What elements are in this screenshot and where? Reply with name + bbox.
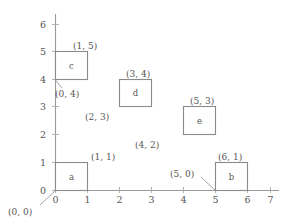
y-tick-labels: 0 1 2 3 4 5 6 [40, 19, 46, 196]
rect-group-c: c (0, 4) (1, 5) [55, 41, 97, 99]
x-tick-labels: 0 1 2 3 4 5 6 7 [52, 194, 273, 205]
origin-label: (0, 0) [8, 207, 32, 217]
rect-group-d: d (2, 3) (3, 4) [85, 69, 152, 122]
y-tick-label-1: 1 [40, 157, 46, 168]
x-tick-label-5: 5 [212, 194, 218, 205]
x-tick-label-4: 4 [180, 194, 186, 205]
rect-e-lower-left-label: (4, 2) [135, 140, 159, 150]
x-tick-label-7: 7 [267, 194, 273, 205]
rect-a-upper-right-label: (1, 1) [91, 152, 115, 162]
rect-d-name: d [133, 88, 139, 98]
y-tick-label-6: 6 [40, 19, 46, 30]
rect-a-name: a [69, 172, 74, 182]
x-tick-label-2: 2 [116, 194, 122, 205]
x-tick-label-1: 1 [84, 194, 90, 205]
y-tick-label-4: 4 [40, 74, 46, 85]
y-tick-label-5: 5 [40, 46, 46, 57]
origin-annotation: (0, 0) [8, 191, 55, 217]
rect-e-upper-right-label: (5, 3) [190, 96, 214, 106]
y-tick-label-2: 2 [40, 129, 46, 140]
chart-container: 0 1 2 3 4 5 6 7 0 1 2 3 4 5 6 (0, 0) a [0, 0, 283, 223]
rect-b-upper-right-label: (6, 1) [218, 152, 242, 162]
rect-c-name: c [69, 61, 74, 71]
y-tick-label-0: 0 [40, 185, 46, 196]
rect-group-b: b (5, 0) (6, 1) [170, 152, 248, 191]
x-tick-label-0: 0 [52, 194, 58, 205]
rect-b-lower-left-label: (5, 0) [170, 169, 194, 179]
x-tick-label-3: 3 [148, 194, 154, 205]
x-tick-label-6: 6 [244, 194, 250, 205]
scatter-rectangle-plot: 0 1 2 3 4 5 6 7 0 1 2 3 4 5 6 (0, 0) a [0, 0, 283, 223]
rect-d-upper-right-label: (3, 4) [126, 69, 150, 79]
rect-c-lower-left-label: (0, 4) [55, 89, 79, 99]
rect-b-leader-line [201, 177, 215, 190]
rect-d-lower-left-label: (2, 3) [85, 112, 109, 122]
rect-e-name: e [197, 116, 202, 126]
y-tick-label-3: 3 [40, 101, 46, 112]
rect-group-a: a (1, 1) [56, 152, 116, 191]
rect-c-upper-right-label: (1, 5) [73, 41, 97, 51]
rect-b-name: b [229, 172, 235, 182]
